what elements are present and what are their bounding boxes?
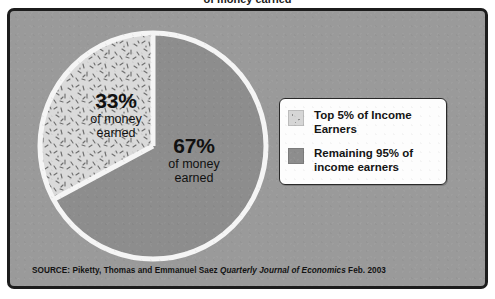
legend-item-top-5-percent: Top 5% of Income Earners <box>288 108 437 137</box>
pie-label-67-line2: earned <box>142 172 246 185</box>
legend-label-top-5-percent-line1: Top 5% of Income <box>314 109 412 121</box>
legend-label-remaining-95-percent: Remaining 95% of income earners <box>314 146 413 175</box>
pie-label-33-line1: of money <box>68 113 164 126</box>
source-citation: SOURCE: Piketty, Thomas and Emmanuel Sae… <box>32 266 386 275</box>
pie-label-33-percent: 33% <box>68 90 164 112</box>
pie-label-33: 33% of money earned <box>68 90 164 140</box>
legend-label-remaining-95-percent-line1: Remaining 95% of <box>314 147 413 159</box>
cut-off-top-text: of money earned <box>0 0 495 5</box>
pie-label-67-line1: of money <box>142 158 246 171</box>
source-prefix: SOURCE: Piketty, Thomas and Emmanuel Sae… <box>32 266 220 275</box>
chart-frame: 33% of money earned 67% of money earned … <box>7 8 488 289</box>
chart-legend: Top 5% of Income Earners Remaining 95% o… <box>279 98 447 185</box>
legend-label-remaining-95-percent-line2: income earners <box>314 161 399 173</box>
legend-item-remaining-95-percent: Remaining 95% of income earners <box>288 146 437 175</box>
source-publication: Quarterly Journal of Economics <box>220 266 346 275</box>
source-suffix: Feb. 2003 <box>346 266 386 275</box>
pie-label-67-percent: 67% <box>142 135 246 157</box>
pie-chart-figure: of money earned <box>0 0 495 299</box>
legend-label-top-5-percent-line2: Earners <box>314 123 357 135</box>
legend-swatch-solid-icon <box>288 148 304 164</box>
legend-swatch-speckled-icon <box>288 110 304 126</box>
pie-chart: 33% of money earned 67% of money earned <box>30 17 280 265</box>
cut-off-top-text-label: of money earned <box>203 0 291 5</box>
legend-label-top-5-percent: Top 5% of Income Earners <box>314 108 412 137</box>
pie-label-67: 67% of money earned <box>142 135 246 185</box>
